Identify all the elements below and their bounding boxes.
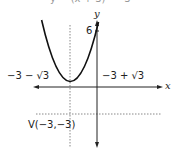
y-axis-label: y (94, 9, 100, 19)
vertex-label: V(−3,−3) (28, 120, 75, 130)
y-axis-down-arrow-icon (95, 142, 99, 148)
x-axis-label: x (165, 81, 171, 91)
y-tick-label: 6 (86, 26, 92, 36)
x-axis-right-arrow-icon (157, 85, 163, 89)
root-right-label: −3 + √3 (102, 71, 144, 81)
root-left-label: −3 − √3 (7, 71, 49, 81)
x-axis-left-arrow-icon (33, 85, 39, 89)
